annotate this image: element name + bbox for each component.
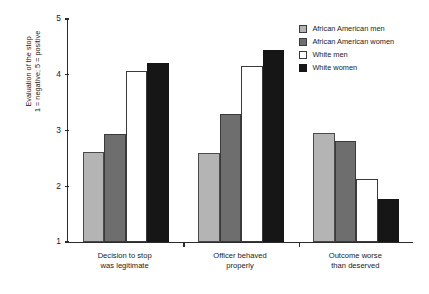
x-axis-category-label: Outcome worsethan deserved xyxy=(298,251,413,270)
y-axis-tick-label: 3 xyxy=(56,125,61,135)
legend-swatch xyxy=(299,51,307,59)
bar xyxy=(241,66,263,242)
x-axis-category-label: Decision to stopwas legitimate xyxy=(67,251,182,270)
legend-item: White men xyxy=(299,49,394,61)
legend-swatch xyxy=(299,38,307,46)
legend-label: White men xyxy=(312,50,347,59)
bar xyxy=(313,133,335,242)
legend-item: African American women xyxy=(299,36,394,48)
legend-item: White women xyxy=(299,62,394,74)
y-axis-tick-mark xyxy=(65,130,70,131)
y-axis-tick-label: 2 xyxy=(56,181,61,191)
bar xyxy=(220,114,242,242)
y-axis-title-line-1: Evaluation of the stop xyxy=(24,0,33,161)
bar xyxy=(83,152,105,242)
bar xyxy=(263,50,285,242)
x-axis-category-label-line: Officer behaved xyxy=(182,251,297,261)
bar xyxy=(147,63,169,243)
x-axis-category-label-line: was legitimate xyxy=(67,261,182,271)
y-axis-tick-mark xyxy=(65,186,70,187)
legend-swatch xyxy=(299,64,307,72)
bar xyxy=(356,179,378,242)
x-axis-category-label-line: than deserved xyxy=(298,261,413,271)
legend-label: African American men xyxy=(312,24,384,33)
bar xyxy=(104,134,126,242)
y-axis-tick-mark xyxy=(65,74,70,75)
x-axis-tick-mark xyxy=(299,242,300,247)
y-axis-tick-mark xyxy=(65,241,70,242)
bar xyxy=(198,153,220,242)
legend: African American menAfrican American wom… xyxy=(299,23,394,75)
x-axis-tick-mark xyxy=(183,242,184,247)
x-axis-category-label: Officer behavedproperly xyxy=(182,251,297,270)
x-axis-category-label-line: Decision to stop xyxy=(67,251,182,261)
legend-item: African American men xyxy=(299,23,394,35)
x-axis-category-label-line: properly xyxy=(182,261,297,271)
legend-swatch xyxy=(299,25,307,33)
legend-label: African American women xyxy=(312,37,394,46)
bar xyxy=(335,141,357,242)
bar xyxy=(378,199,400,242)
x-axis-category-label-line: Outcome worse xyxy=(298,251,413,261)
y-axis-tick-label: 4 xyxy=(56,69,61,79)
bar xyxy=(126,71,148,242)
bar-chart: Evaluation of the stop 1 = negative; 5 =… xyxy=(0,0,429,294)
y-axis-tick-label: 5 xyxy=(56,13,61,23)
y-axis-tick-label: 1 xyxy=(56,236,61,246)
legend-label: White women xyxy=(312,63,357,72)
y-axis-title-line-2: 1 = negative; 5 = positive xyxy=(33,0,42,161)
y-axis-tick-mark xyxy=(65,18,70,19)
y-axis-title: Evaluation of the stop 1 = negative; 5 =… xyxy=(24,0,43,161)
